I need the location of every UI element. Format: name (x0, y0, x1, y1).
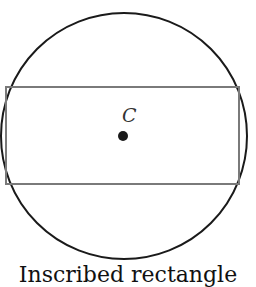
caption: Inscribed rectangle (0, 262, 256, 287)
center-label: C (122, 104, 137, 126)
center-point (118, 131, 128, 141)
